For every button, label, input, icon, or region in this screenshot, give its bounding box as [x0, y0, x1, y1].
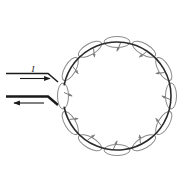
- field-direction-arrow: [156, 73, 165, 74]
- current-label-I: I: [31, 64, 36, 74]
- figure-canvas: I: [0, 0, 195, 176]
- field-direction-arrow: [69, 119, 78, 120]
- field-direction-arrow: [94, 48, 95, 57]
- lead-wires: I: [6, 64, 58, 105]
- top-lead-wire: [6, 74, 58, 83]
- field-direction-arrow: [140, 135, 141, 144]
- bottom-lead-wire: [6, 97, 58, 106]
- field-line-ellipse: [58, 83, 69, 109]
- magnetic-field-lines: [58, 37, 177, 156]
- current-loop-circle: [64, 42, 171, 150]
- magnetic-field-arrows: [64, 43, 170, 149]
- current-loop-field-diagram: I: [0, 0, 195, 176]
